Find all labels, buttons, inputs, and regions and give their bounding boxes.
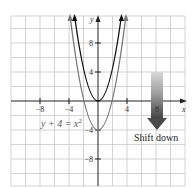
tick-label-y-8: 8 (89, 39, 93, 48)
tick-label-y-4: 4 (89, 68, 93, 77)
equation-label: y + 4 = x2 (40, 117, 82, 129)
tick-label-x-m4: −4 (65, 105, 74, 114)
tick-label-x-4: 4 (125, 105, 129, 114)
shift-down-label: Shift down (134, 132, 178, 143)
tick-label-x-8: 8 (155, 105, 159, 114)
curve-original-left-arrow-icon (72, 14, 77, 21)
tick-label-y-m4: −4 (84, 126, 93, 135)
graph: −8 −4 4 8 8 4 −4 −8 y x y + 4 = x2 Shift… (0, 0, 194, 188)
tick-label-y-m8: −8 (84, 155, 93, 164)
curve-shifted-left-arrow-icon (68, 14, 73, 21)
equation-main: y + 4 = x (40, 118, 79, 129)
x-axis-arrow-icon (180, 99, 187, 104)
equation-sup: 2 (78, 117, 82, 125)
curve-original-right-arrow-icon (119, 14, 124, 21)
x-axis-label: x (181, 105, 186, 114)
curve-shifted-right-arrow-icon (123, 14, 128, 21)
y-axis-label: y (89, 15, 94, 24)
tick-label-x-m8: −8 (36, 105, 45, 114)
